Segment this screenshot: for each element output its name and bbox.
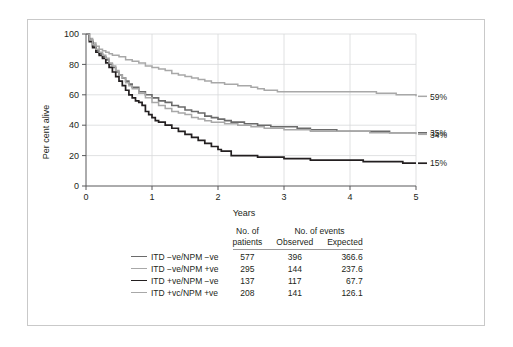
cell-patients-3: 208 <box>226 287 270 299</box>
legend-row-label-0: ITD −ve/NPM −ve <box>124 251 226 263</box>
legend-line-swatch-0 <box>131 256 147 257</box>
legend-statistics-table: No. of No. of events patients Observed E… <box>28 226 486 326</box>
legend-label-text-1: ITD −ve/NPM +ve <box>151 264 219 274</box>
stats-table-body: ITD −ve/NPM −ve577396366.6ITD −ve/NPM +v… <box>124 251 370 299</box>
endpoint-label-3: 34% <box>430 130 447 140</box>
y-axis-title: Per cent alive <box>41 105 51 160</box>
table-row: ITD +ve/NPM −ve13711767.7 <box>124 275 370 287</box>
grid-lines <box>86 34 416 186</box>
survival-chart: 020406080100012345 35%59%15%34% Per cent… <box>28 20 486 220</box>
cell-expected-0: 366.6 <box>320 251 369 263</box>
x-tick-label-1: 1 <box>149 192 154 202</box>
cell-patients-2: 137 <box>226 275 270 287</box>
cell-patients-1: 295 <box>226 263 270 275</box>
axes <box>86 34 416 186</box>
legend-line-swatch-1 <box>131 268 147 269</box>
x-tick-label-3: 3 <box>281 192 286 202</box>
cell-expected-2: 67.7 <box>320 275 369 287</box>
stats-table: No. of No. of events patients Observed E… <box>124 226 370 299</box>
header-patients-line1: No. of <box>226 226 270 237</box>
header-row-group: No. of No. of events <box>124 226 370 237</box>
x-tick-label-5: 5 <box>413 192 418 202</box>
legend-label-text-3: ITD +vc/NPM +ve <box>151 288 218 298</box>
legend-label-text-2: ITD +ve/NPM −ve <box>151 276 219 286</box>
legend-line-swatch-3 <box>131 292 147 293</box>
y-tick-label-20: 20 <box>69 151 79 161</box>
curve-series-2 <box>86 34 416 163</box>
table-row: ITD −ve/NPM +ve295144237.6 <box>124 263 370 275</box>
chart-svg: 020406080100012345 35%59%15%34% Per cent… <box>28 20 486 220</box>
y-tick-label-0: 0 <box>74 181 79 191</box>
header-expected: Expected <box>320 237 369 248</box>
survival-curves <box>86 34 416 163</box>
legend-row-label-1: ITD −ve/NPM +ve <box>124 263 226 275</box>
header-row-sub: patients Observed Expected <box>124 237 370 248</box>
cell-observed-2: 117 <box>269 275 320 287</box>
legend-line-swatch-2 <box>131 280 147 281</box>
y-tick-label-40: 40 <box>69 120 79 130</box>
curve-series-0 <box>86 34 416 133</box>
y-tick-label-80: 80 <box>69 60 79 70</box>
cell-expected-3: 126.1 <box>320 287 369 299</box>
legend-label-text-0: ITD −ve/NPM −ve <box>151 252 219 262</box>
cell-observed-1: 144 <box>269 263 320 275</box>
x-tick-label-2: 2 <box>215 192 220 202</box>
x-tick-label-0: 0 <box>83 192 88 202</box>
legend-row-label-3: ITD +vc/NPM +ve <box>124 287 226 299</box>
cell-patients-0: 577 <box>226 251 270 263</box>
x-tick-label-4: 4 <box>347 192 352 202</box>
cell-observed-3: 141 <box>269 287 320 299</box>
header-observed: Observed <box>269 237 320 248</box>
header-spacer-2 <box>124 237 226 248</box>
y-tick-label-60: 60 <box>69 90 79 100</box>
header-events-group: No. of events <box>269 226 369 237</box>
stats-table-head: No. of No. of events patients Observed E… <box>124 226 370 251</box>
header-divider <box>233 249 363 250</box>
header-patients-line2: patients <box>226 237 270 248</box>
curve-series-3 <box>86 34 416 134</box>
legend-row-label-2: ITD +ve/NPM −ve <box>124 275 226 287</box>
endpoint-label-2: 15% <box>430 158 447 168</box>
endpoint-labels: 35%59%15%34% <box>418 92 447 169</box>
header-spacer <box>124 226 226 237</box>
table-row: ITD +vc/NPM +ve208141126.1 <box>124 287 370 299</box>
table-row: ITD −ve/NPM −ve577396366.6 <box>124 251 370 263</box>
cell-observed-0: 396 <box>269 251 320 263</box>
endpoint-label-1: 59% <box>430 92 447 102</box>
y-tick-label-100: 100 <box>64 29 79 39</box>
figure-frame: 020406080100012345 35%59%15%34% Per cent… <box>27 19 485 326</box>
cell-expected-1: 237.6 <box>320 263 369 275</box>
x-axis-title: Years <box>233 208 256 218</box>
